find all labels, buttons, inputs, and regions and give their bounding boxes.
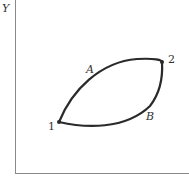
point-2-label: 2 xyxy=(168,53,175,66)
path-a-label: A xyxy=(85,63,94,76)
y-axis-label: Y xyxy=(2,2,11,15)
path-b-label: B xyxy=(145,110,154,123)
point-1-label: 1 xyxy=(48,120,55,133)
point-1-marker xyxy=(57,120,61,124)
process-diagram: Y 1 2 A B xyxy=(0,0,189,179)
point-2-marker xyxy=(160,60,164,64)
